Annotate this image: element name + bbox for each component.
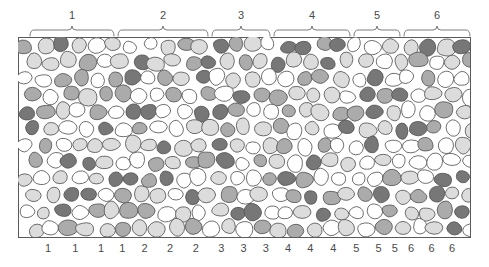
mosaic-cell <box>186 120 203 134</box>
mosaic-cell <box>289 86 306 100</box>
mosaic-cell <box>311 69 328 83</box>
mosaic-figure: 123456 1111222333444555666 <box>0 0 489 267</box>
mosaic-cell <box>173 72 189 86</box>
mosaic-cell <box>402 101 416 118</box>
mosaic-cell <box>359 123 377 138</box>
mosaic-cell <box>400 70 414 84</box>
tick-label: 4 <box>285 242 291 254</box>
mosaic-cell <box>20 205 35 218</box>
mosaic-cell <box>37 105 56 118</box>
mosaic-cell <box>374 154 391 165</box>
mosaic-cell <box>211 172 227 185</box>
mosaic-cell <box>265 206 280 219</box>
mosaic-cell <box>104 201 119 219</box>
mosaic-cell <box>44 122 59 135</box>
mosaic-cell <box>445 187 458 199</box>
tick-label: 3 <box>263 242 269 254</box>
tick-label: 2 <box>193 242 199 254</box>
mosaic-cell <box>347 37 360 52</box>
mosaic-cell <box>126 104 141 119</box>
tick-label: 1 <box>119 242 125 254</box>
mosaic-cell <box>64 188 79 202</box>
mosaic-cell <box>141 104 157 119</box>
mosaic-cell <box>88 139 103 153</box>
mosaic-cell <box>27 53 42 69</box>
mosaic-cell <box>367 172 383 186</box>
mosaic-cell <box>453 40 471 54</box>
mosaic-cell <box>212 203 229 216</box>
mosaic-cell <box>462 188 475 202</box>
mosaic-cell <box>287 224 304 238</box>
mosaic-cell <box>278 172 296 186</box>
mosaic-cell <box>435 102 453 118</box>
mosaic-cell <box>254 220 271 234</box>
mosaic-cell <box>216 153 234 169</box>
mosaic-cell <box>405 207 419 220</box>
mosaic-cell <box>246 142 261 154</box>
mosaic-cell <box>161 40 175 55</box>
mosaic-cell <box>88 38 106 54</box>
mosaic-cell <box>358 223 375 237</box>
mosaic-cell <box>201 56 216 69</box>
mosaic-cell <box>367 204 383 219</box>
mosaic-cell <box>42 58 59 71</box>
mosaic-cell <box>298 72 312 86</box>
mosaic-cell <box>148 158 164 172</box>
mosaic-cell <box>401 171 419 184</box>
mosaic-cell <box>115 85 131 102</box>
mosaic-cell <box>375 219 392 234</box>
mosaic-cell <box>409 122 427 136</box>
mosaic-cell <box>202 119 219 135</box>
mosaic-cell <box>72 38 86 53</box>
mosaic-cell <box>90 105 107 120</box>
mosaic-cell <box>130 88 147 103</box>
mosaic-cell <box>429 186 444 202</box>
mosaic-cell <box>305 191 317 204</box>
mosaic-cell <box>190 168 206 185</box>
mosaic-cell <box>427 153 443 170</box>
mosaic-cell <box>230 139 244 152</box>
mosaic-cell <box>26 189 42 201</box>
mosaic-cell <box>411 89 426 103</box>
mosaic-cell <box>306 155 321 170</box>
mosaic-cell <box>278 71 294 87</box>
mosaic-cell <box>120 202 138 218</box>
mosaic-cell <box>129 152 144 168</box>
mosaic-cell <box>236 157 250 170</box>
mosaic-cell <box>333 71 349 87</box>
mosaic-cell <box>463 224 480 237</box>
mosaic-cell <box>75 223 93 236</box>
mosaic-cell <box>229 37 243 52</box>
mosaic-cell <box>91 73 105 88</box>
brace-path-4 <box>274 26 350 36</box>
mosaic-cell <box>150 88 164 101</box>
mosaic-cell <box>269 154 285 168</box>
brace-2: 2 <box>118 9 208 36</box>
tick-label: 6 <box>428 242 434 254</box>
mosaic-cell <box>409 52 429 67</box>
mosaic-cell <box>134 186 149 202</box>
mosaic-cell <box>213 104 228 119</box>
mosaic-cell <box>148 222 165 238</box>
mosaic-cell <box>269 90 287 106</box>
brace-path-1 <box>30 26 114 36</box>
mosaic-cell <box>443 153 461 165</box>
mosaic-cell <box>305 121 319 135</box>
tick-label: 6 <box>408 242 414 254</box>
mosaic-cell <box>364 136 378 153</box>
mosaic-cell <box>304 54 319 69</box>
mosaic-cell <box>55 73 72 86</box>
mosaic-cell <box>96 156 113 169</box>
mosaic-cell <box>307 223 322 237</box>
mosaic-cell <box>395 221 411 234</box>
mosaic-cell <box>175 140 193 156</box>
mosaic-cell <box>270 223 286 238</box>
mosaic-cell <box>60 51 76 67</box>
mosaic-cell <box>352 173 365 186</box>
mosaic-cell <box>72 171 89 184</box>
mosaic-cell <box>156 104 171 118</box>
mosaic-cell <box>341 157 356 171</box>
mosaic-cell <box>109 172 123 187</box>
mosaic-cell <box>132 220 147 236</box>
mosaic-cell <box>392 88 408 101</box>
